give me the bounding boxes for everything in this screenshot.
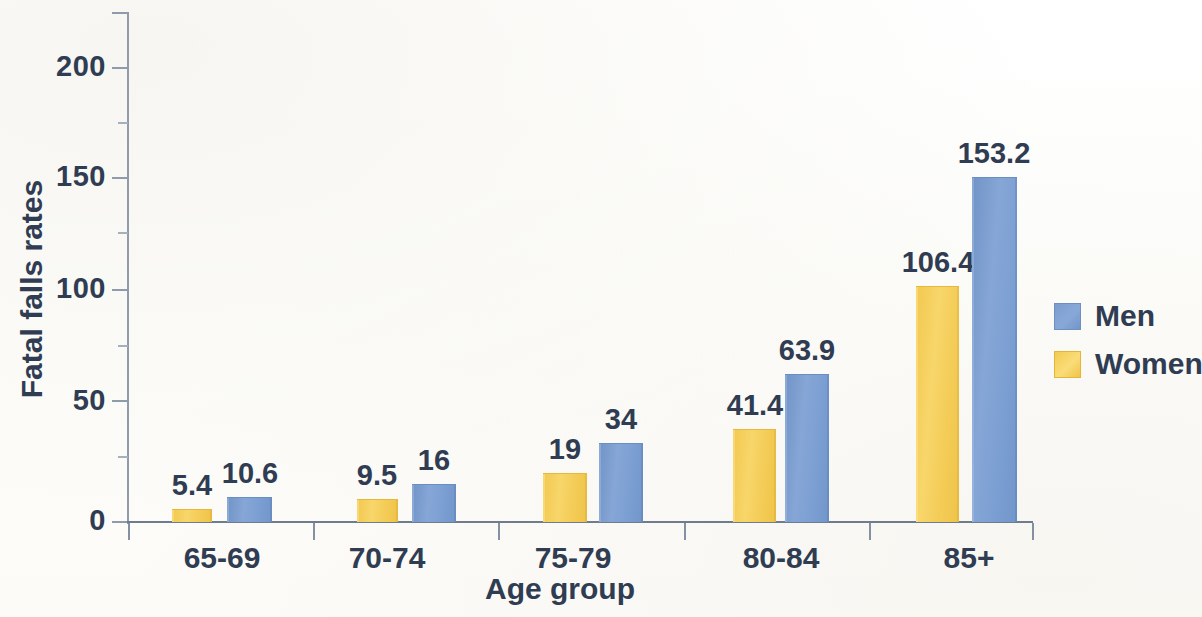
y-axis-title: Fatal falls rates: [15, 139, 49, 439]
y-axis-label-150: 150: [56, 162, 106, 191]
x-axis-group-label-85plus: 85+: [914, 541, 1024, 575]
x-axis-tick-sep-4: [869, 523, 871, 540]
bar-value-men-70-74: 16: [396, 446, 472, 475]
y-axis-tick-150: [112, 177, 128, 179]
bar-value-men-75-79: 34: [583, 405, 659, 434]
y-axis-minor-tick-25: [118, 456, 128, 458]
y-axis-tick-50: [112, 400, 128, 402]
y-axis-tick-100: [112, 289, 128, 291]
x-axis-group-label-80-84: 80-84: [721, 541, 841, 575]
x-axis-tick-start: [128, 523, 130, 540]
bar-men-80-84[interactable]: [785, 374, 829, 522]
bar-men-70-74[interactable]: [412, 484, 456, 522]
y-axis-line: [127, 12, 129, 524]
fatal-falls-rates-bar-chart: 200 150 100 50 0 Fatal falls rates Age g…: [0, 0, 1202, 617]
x-axis-title: Age group: [430, 572, 690, 606]
legend-label-women: Women: [1095, 347, 1202, 381]
bar-men-65-69[interactable]: [227, 497, 272, 522]
bar-women-70-74[interactable]: [357, 499, 398, 522]
bar-women-85plus[interactable]: [916, 286, 959, 522]
legend-item-men[interactable]: Men: [1054, 292, 1202, 340]
y-axis-label-200: 200: [56, 52, 106, 81]
legend-label-men: Men: [1095, 299, 1155, 333]
x-axis-tick-sep-3: [684, 523, 686, 540]
bar-men-85plus[interactable]: [972, 177, 1017, 522]
x-axis-tick-end: [1032, 523, 1034, 540]
bar-women-75-79[interactable]: [543, 473, 587, 522]
x-axis-tick-sep-1: [313, 523, 315, 540]
y-axis-label-0: 0: [89, 506, 106, 535]
y-axis-label-50: 50: [73, 386, 106, 415]
y-axis-label-100: 100: [56, 274, 106, 303]
y-axis-minor-tick-125: [118, 232, 128, 234]
plot-area: 200 150 100 50 0 Fatal falls rates Age g…: [0, 0, 1202, 617]
bar-value-women-75-79: 19: [525, 435, 605, 464]
x-axis-group-label-65-69: 65-69: [162, 541, 282, 575]
x-axis-group-label-75-79: 75-79: [513, 541, 633, 575]
x-axis-tick-sep-2: [498, 523, 500, 540]
women-color-swatch-icon: [1054, 351, 1081, 378]
y-axis-minor-tick-175: [118, 122, 128, 124]
y-axis-tick-200: [112, 67, 128, 69]
x-axis-group-label-70-74: 70-74: [327, 541, 447, 575]
y-axis-minor-tick-75: [118, 345, 128, 347]
chart-legend: Men Women: [1054, 292, 1202, 388]
bar-women-65-69[interactable]: [172, 509, 212, 522]
bar-value-men-85plus: 153.2: [941, 139, 1047, 168]
bar-value-men-65-69: 10.6: [209, 459, 291, 488]
bar-men-75-79[interactable]: [599, 443, 643, 522]
legend-item-women[interactable]: Women: [1054, 340, 1202, 388]
bar-value-men-80-84: 63.9: [764, 336, 850, 365]
men-color-swatch-icon: [1054, 303, 1081, 330]
y-axis-tick-top: [112, 12, 128, 14]
y-axis-tick-0: [112, 521, 128, 523]
bar-women-80-84[interactable]: [733, 429, 776, 522]
